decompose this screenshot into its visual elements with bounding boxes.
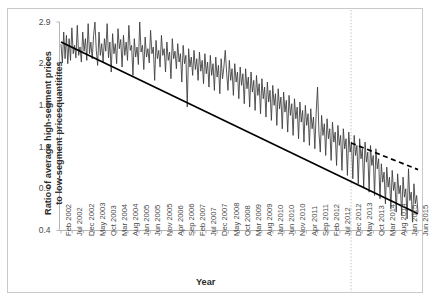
y-axis-title-line-2: to low-segment pricesquantitites xyxy=(54,33,65,233)
x-axis-title: Year xyxy=(196,277,215,287)
x-tick-label: Feb 2002 xyxy=(64,203,73,235)
x-tick-label: Jul 2012 xyxy=(343,207,352,236)
x-tick-label: Jun 2015 xyxy=(421,204,430,235)
x-tick-label: Apr 2006 xyxy=(176,205,185,236)
x-tick-label: Dec 2007 xyxy=(220,203,229,236)
x-tick-label: Oct 2008 xyxy=(243,205,252,236)
x-tick-label: Sep 2011 xyxy=(321,204,330,236)
x-tick-label: Jan 2005 xyxy=(142,204,151,235)
x-tick-label: May 2008 xyxy=(232,202,241,235)
x-tick-label: Aug 2009 xyxy=(265,203,274,236)
x-tick-label: Feb 2012 xyxy=(332,203,341,235)
data-series-line xyxy=(61,22,418,222)
x-tick-label: Jul 2002 xyxy=(75,207,84,236)
y-axis-title-line-1: Ratio of average high-segment prices xyxy=(43,33,54,233)
x-tick-label: May 2013 xyxy=(365,202,374,235)
x-tick-label: Nov 2005 xyxy=(165,203,174,236)
x-tick-label: Feb 2007 xyxy=(198,203,207,235)
x-tick-label: Jun 2005 xyxy=(153,204,162,235)
chart-figure: 2.92.41.91.40.90.4 Feb 2002Jul 2002Dec 2… xyxy=(0,0,437,305)
x-tick-label: Aug 2004 xyxy=(131,203,140,236)
x-tick-label: Mar 2009 xyxy=(254,203,263,235)
x-tick-label: Jan 2015 xyxy=(410,204,419,235)
plot-canvas xyxy=(0,0,437,305)
x-tick-label: Mar 2014 xyxy=(388,203,397,235)
x-tick-label: Dec 2002 xyxy=(87,203,96,236)
x-tick-label: Dec 2012 xyxy=(354,203,363,236)
x-tick-label: Sep 2006 xyxy=(187,203,196,236)
x-tick-label: Apr 2011 xyxy=(310,205,319,235)
y-axis-title: Ratio of average high-segment prices to … xyxy=(43,33,65,233)
x-tick-label: May 2003 xyxy=(98,202,107,235)
x-tick-label: Jul 2007 xyxy=(209,207,218,236)
x-tick-label: Mar 2004 xyxy=(120,203,129,235)
x-tick-label: Jun 2010 xyxy=(287,204,296,235)
trend-line-solid xyxy=(61,42,418,214)
x-tick-label: Oct 2003 xyxy=(109,205,118,236)
x-tick-label: Oct 2013 xyxy=(377,205,386,236)
x-tick-label: Nov 2010 xyxy=(298,203,307,236)
y-tick-label: 2.9 xyxy=(29,17,51,27)
x-tick-label: Aug 2014 xyxy=(399,203,408,236)
x-tick-label: Jan 2010 xyxy=(276,204,285,235)
